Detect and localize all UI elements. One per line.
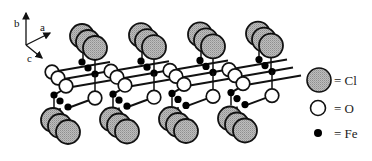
o-atom [177,78,191,92]
fe-atom [143,64,150,71]
cl-atom [56,120,80,144]
fe-atom [255,56,262,63]
a-axis-label: a [40,21,45,33]
legend-label-o: = O [334,101,354,116]
fe-atom [261,62,268,69]
crystal-lattice [41,22,301,144]
legend-item-o: = O [311,101,354,117]
c-axis-label: c [27,52,32,64]
legend-label-cl: = Cl [334,73,357,88]
legend: = Cl = O = Fe [307,68,358,141]
fe-atom-icon [314,129,322,137]
fe-atom [196,57,203,64]
o-atom [59,79,73,93]
crystal-structure-figure: b a c = Cl = O = Fe [0,0,372,161]
fe-atom [174,96,181,103]
fe-atom [182,102,189,109]
o-atom [265,89,279,103]
cl-atom-icon [307,68,331,92]
cl-atom [174,119,198,143]
axis-indicator: b a c [14,13,50,64]
fe-atom [168,90,175,97]
fe-atom [123,103,130,110]
fe-atom [56,97,63,104]
cl-atom [233,119,257,143]
legend-item-cl: = Cl [307,68,357,92]
cl-atom [142,35,166,59]
fe-atom [227,89,234,96]
fe-atom [241,101,248,108]
fe-atom [109,91,116,98]
fe-atom [115,97,122,104]
o-atom [206,90,220,104]
cl-atom [259,34,283,58]
fe-atom [84,64,91,71]
cl-atom [115,120,139,144]
b-axis-label: b [14,17,20,29]
o-atom-icon [311,101,326,116]
o-atom [236,77,250,91]
fe-atom [64,103,71,110]
fe-atom [233,95,240,102]
legend-item-fe: = Fe [314,126,358,141]
o-atom [88,91,102,105]
fe-atom [202,63,209,70]
fe-atom [50,91,57,98]
fe-atom [137,58,144,65]
o-atom [118,78,132,92]
cl-atom [83,36,107,60]
a-axis-arrow [26,33,50,45]
cl-atom [201,34,225,58]
fe-atom [78,58,85,65]
legend-label-fe: = Fe [334,126,358,141]
o-atom [147,90,161,104]
